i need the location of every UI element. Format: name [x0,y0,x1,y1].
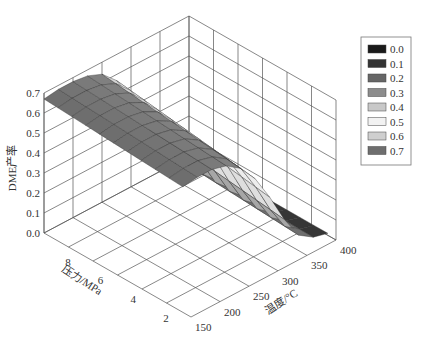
surface-3d-chart: 0.00.10.20.30.40.50.60.71502002503003504… [0,0,428,342]
x-tick: 250 [253,290,270,302]
x-tick: 150 [195,321,212,333]
legend-label: 0.5 [390,116,404,128]
legend-label: 0.0 [390,43,404,55]
legend-label: 0.7 [390,145,404,157]
surface-plot [44,74,328,237]
z-tick: 0.1 [26,207,40,219]
x-tick: 350 [311,259,328,271]
legend: 0.00.10.20.30.40.50.60.7 [361,37,411,165]
x-tick: 400 [340,244,357,256]
z-tick: 0.7 [26,87,40,99]
z-tick: 0.3 [26,167,40,179]
x-tick: 200 [224,306,241,318]
legend-label: 0.3 [390,87,404,99]
y-tick: 2 [163,312,169,324]
z-tick: 0.0 [26,227,40,239]
y-tick: 4 [131,293,137,305]
z-tick: 0.4 [26,147,40,159]
legend-label: 0.4 [390,101,404,113]
z-tick: 0.6 [26,107,40,119]
z-tick: 0.5 [26,127,40,139]
z-axis-label: DME产率 [5,145,18,191]
legend-label: 0.2 [390,72,404,84]
z-tick: 0.2 [26,187,40,199]
x-tick: 300 [282,275,299,287]
legend-label: 0.6 [390,130,404,142]
legend-label: 0.1 [390,58,404,70]
